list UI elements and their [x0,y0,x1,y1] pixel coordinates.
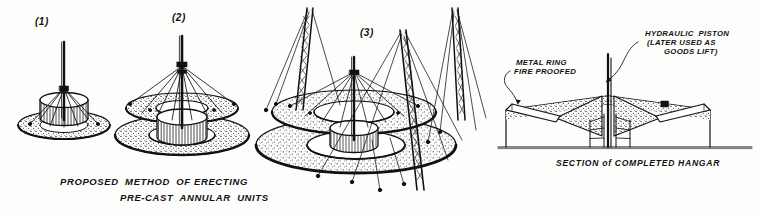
hydraulic-piston-label-line-2: (LATER USED AS [647,38,716,47]
hydraulic-piston-label-line-3: GOODS LIFT) [664,47,718,56]
metal-ring-label-line-1: METAL RING [516,58,567,67]
hydraulic-piston-label-line-1: HYDRAULIC PISTON [645,29,729,38]
main-caption-line-2: PRE-CAST ANNULAR UNITS [120,192,269,203]
metal-ring-label-line-2: FIRE PROOFED [514,67,576,76]
main-caption-line-1: PROPOSED METHOD OF ERECTING [60,176,248,187]
panel-1-number: (1) [35,16,49,28]
panel-2-number: (2) [172,12,186,24]
drawing-sheet: (1) (2) (3) PROPOSED METHOD OF ERECTING … [0,0,762,215]
panel-3-number: (3) [360,27,374,39]
panel-1-figure [18,42,110,139]
section-caption: SECTION of COMPLETED HANGAR [556,158,720,168]
panel-2-figure [115,36,249,155]
